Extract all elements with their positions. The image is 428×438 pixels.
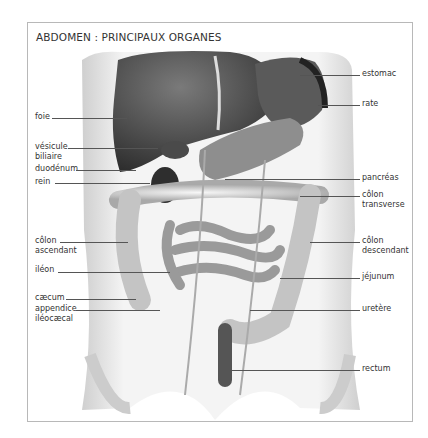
leader-line [58,272,170,273]
label-colon-descendant: côlondescendant [362,236,409,256]
leader-line [55,183,150,184]
label-rectum: rectum [362,364,390,374]
label-duodenum: duodénum [35,164,78,174]
label-colon-ascendant: côlonascendant [35,236,77,256]
label-estomac: estomac [362,69,396,79]
label-uretere: uretère [362,304,391,314]
label-caecum: cæcum [35,293,65,303]
label-rein: rein [35,177,50,187]
label-jejunum: jéjunum [362,272,394,282]
leader-line [300,75,360,76]
leader-line [310,242,360,243]
label-vesicule-biliaire: vésiculebiliaire [35,142,68,162]
leader-line [225,179,360,180]
label-appendice-ileocaecal: appendiceiléocæcal [35,304,77,324]
leader-line [250,310,360,311]
leader-line [76,310,160,311]
leader-line [52,118,127,119]
label-pancreas: pancréas [362,173,399,183]
leader-line [68,148,158,149]
label-colon-transverse: côlontransverse [362,190,405,210]
label-ileon: iléon [35,265,54,275]
label-rate: rate [362,99,378,109]
leader-line [318,105,360,106]
leader-line [280,278,360,279]
leader-line [300,196,360,197]
leader-line [230,370,360,371]
leader-line [66,299,136,300]
leader-line [60,242,128,243]
leader-line [76,170,136,171]
label-foie: foie [35,112,50,122]
